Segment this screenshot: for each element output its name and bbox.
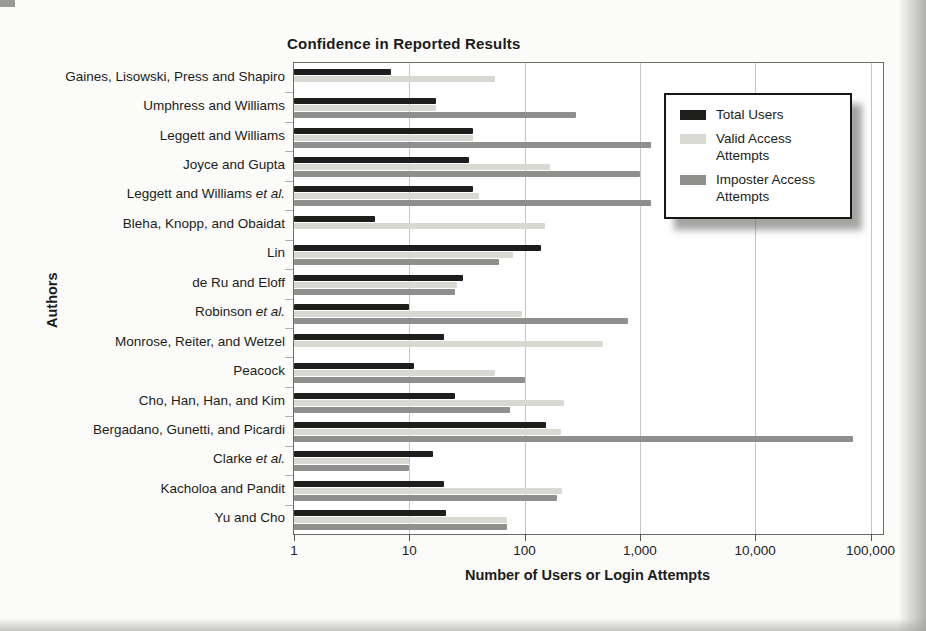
bar-valid-access-attempts — [294, 252, 513, 258]
x-axis-tick — [871, 534, 872, 541]
bar-valid-access-attempts — [294, 76, 495, 82]
bar-total-users — [294, 186, 473, 192]
author-label: Bleha, Knopp, and Obaidat — [0, 215, 285, 233]
legend-swatch-total-users — [680, 110, 706, 120]
author-label-etal: et al. — [256, 304, 285, 319]
legend-swatch-valid-access-attempts — [680, 134, 706, 144]
x-axis-tick-label: 100 — [480, 543, 570, 558]
author-label: Monrose, Reiter, and Wetzel — [0, 333, 285, 351]
bar-imposter-access-attempts — [294, 200, 651, 206]
x-axis-tick-label: 10,000 — [710, 543, 800, 558]
legend-item: Total Users — [680, 106, 840, 123]
bar-total-users — [294, 422, 546, 428]
y-axis-separator-tick — [285, 240, 293, 241]
bar-imposter-access-attempts — [294, 436, 853, 442]
bar-valid-access-attempts — [294, 517, 507, 523]
bar-valid-access-attempts — [294, 370, 495, 376]
x-axis-tick-label: 1,000 — [595, 543, 685, 558]
x-axis-tick-label: 10 — [364, 543, 454, 558]
bar-valid-access-attempts — [294, 458, 409, 464]
y-axis-separator-tick — [285, 151, 293, 152]
y-axis-separator-tick — [285, 122, 293, 123]
bar-valid-access-attempts — [294, 488, 562, 494]
author-label: Robinson et al. — [0, 303, 285, 321]
legend-swatch-imposter-access-attempts — [680, 175, 706, 185]
bar-imposter-access-attempts — [294, 259, 499, 265]
bar-valid-access-attempts — [294, 193, 479, 199]
y-axis-separator-tick — [285, 181, 293, 182]
bar-imposter-access-attempts — [294, 495, 557, 501]
bar-imposter-access-attempts — [294, 377, 525, 383]
bar-valid-access-attempts — [294, 105, 436, 111]
x-axis-tick — [525, 534, 526, 541]
bar-total-users — [294, 98, 436, 104]
bar-total-users — [294, 451, 433, 457]
bar-total-users — [294, 245, 541, 251]
bar-total-users — [294, 216, 375, 222]
page-edge-shadow-right — [898, 0, 926, 631]
legend-label: Imposter Access Attempts — [716, 171, 840, 205]
author-label: Umphress and Williams — [0, 97, 285, 115]
bar-imposter-access-attempts — [294, 112, 576, 118]
legend-label: Total Users — [716, 106, 784, 123]
bar-valid-access-attempts — [294, 429, 561, 435]
y-axis-separator-tick — [285, 387, 293, 388]
bar-total-users — [294, 157, 469, 163]
gridline — [525, 63, 526, 534]
author-label: Cho, Han, Han, and Kim — [0, 392, 285, 410]
y-axis-separator-tick — [285, 475, 293, 476]
bar-valid-access-attempts — [294, 282, 457, 288]
author-label: Clarke et al. — [0, 450, 285, 468]
legend: Total UsersValid Access AttemptsImposter… — [664, 93, 852, 219]
legend-label: Valid Access Attempts — [716, 130, 840, 164]
page-edge-shadow-bottom — [0, 618, 926, 631]
bar-valid-access-attempts — [294, 311, 522, 317]
bar-imposter-access-attempts — [294, 171, 640, 177]
author-label: Lin — [0, 244, 285, 262]
bar-imposter-access-attempts — [294, 407, 510, 413]
bar-imposter-access-attempts — [294, 318, 628, 324]
x-axis-tick-label: 1 — [249, 543, 339, 558]
author-label: de Ru and Eloff — [0, 274, 285, 292]
bar-total-users — [294, 510, 446, 516]
y-axis-separator-tick — [285, 92, 293, 93]
bar-valid-access-attempts — [294, 223, 545, 229]
author-label: Gaines, Lisowski, Press and Shapiro — [0, 68, 285, 86]
author-label-etal: et al. — [256, 186, 285, 201]
author-label: Peacock — [0, 362, 285, 380]
author-label: Kacholoa and Pandit — [0, 480, 285, 498]
y-axis-separator-tick — [285, 210, 293, 211]
y-axis-separator-tick — [285, 416, 293, 417]
gridline — [640, 63, 641, 534]
bar-imposter-access-attempts — [294, 142, 651, 148]
bar-total-users — [294, 304, 409, 310]
bar-total-users — [294, 69, 391, 75]
bar-total-users — [294, 363, 414, 369]
y-axis-separator-tick — [285, 269, 293, 270]
bar-total-users — [294, 275, 463, 281]
page-corner-mark — [0, 0, 15, 7]
bar-imposter-access-attempts — [294, 289, 455, 295]
bar-valid-access-attempts — [294, 164, 550, 170]
y-axis-separator-tick — [285, 505, 293, 506]
x-axis-title: Number of Users or Login Attempts — [293, 567, 882, 583]
bar-valid-access-attempts — [294, 341, 603, 347]
author-label: Leggett and Williams et al. — [0, 185, 285, 203]
bar-imposter-access-attempts — [294, 465, 409, 471]
bar-imposter-access-attempts — [294, 524, 507, 530]
legend-item: Valid Access Attempts — [680, 130, 840, 164]
bar-total-users — [294, 334, 444, 340]
author-label: Joyce and Gupta — [0, 156, 285, 174]
scanned-chart-page: Confidence in Reported Results Authors 1… — [0, 0, 926, 631]
gridline — [409, 63, 410, 534]
bar-total-users — [294, 481, 444, 487]
bar-total-users — [294, 128, 473, 134]
bar-valid-access-attempts — [294, 135, 473, 141]
legend-item: Imposter Access Attempts — [680, 171, 840, 205]
author-label-etal: et al. — [256, 451, 285, 466]
author-label: Bergadano, Gunetti, and Picardi — [0, 421, 285, 439]
x-axis-tick — [640, 534, 641, 541]
gridline — [871, 63, 872, 534]
chart-title: Confidence in Reported Results — [287, 35, 521, 52]
x-axis-tick — [409, 534, 410, 541]
